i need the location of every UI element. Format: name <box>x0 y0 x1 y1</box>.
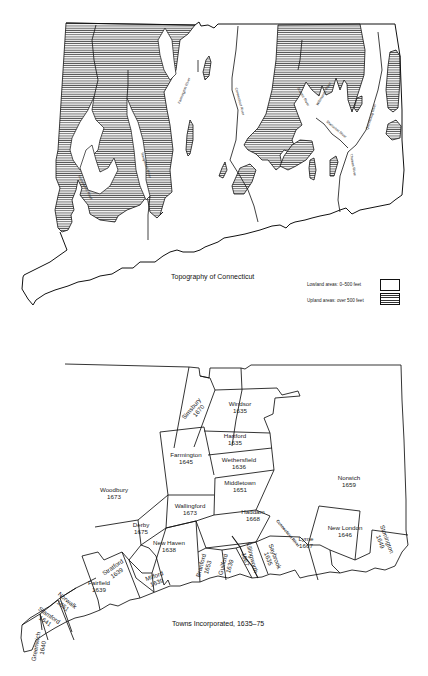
town-name: Milford <box>144 569 164 582</box>
town-year: 1639 <box>109 566 125 580</box>
river-label-thames: Thames River <box>349 153 357 177</box>
svg-text:Norwalk1651: Norwalk1651 <box>52 590 79 616</box>
town-name: Norwalk <box>57 590 79 610</box>
svg-text:Fairfield1639: Fairfield1639 <box>88 579 111 593</box>
upland-island <box>186 120 193 156</box>
town-year: 1673 <box>107 493 121 500</box>
upland-island <box>386 50 400 112</box>
river-label-connecticut: Connecticut River <box>275 518 301 548</box>
town-name: Woodbury <box>100 486 129 493</box>
topography-map: Housatonic River Naugatuck River Farming… <box>0 0 428 340</box>
town-year: 1641 <box>38 614 54 628</box>
town-name: Fairfield <box>88 579 111 586</box>
topography-map-title: Topography of Connecticut <box>171 273 254 280</box>
upland-island <box>309 158 316 180</box>
town-name: Killingworth <box>245 541 260 574</box>
svg-text:Stratford1639: Stratford1639 <box>101 557 129 582</box>
state-outline <box>21 364 408 652</box>
svg-text:Simsbury1670: Simsbury1670 <box>180 396 208 425</box>
town-year: 1673 <box>183 509 197 516</box>
town-year: 1639 <box>224 558 234 574</box>
town-year: 1651 <box>233 486 247 493</box>
svg-text:New London1646: New London1646 <box>328 524 363 538</box>
svg-text:Killingworth1667: Killingworth1667 <box>238 541 260 576</box>
upland-island <box>203 56 211 80</box>
town-name: Wethersfield <box>222 456 257 463</box>
town-name: Farmington <box>170 451 202 458</box>
river-label-quinebaug: Quinebaug River <box>365 103 377 131</box>
svg-text:Saybrook1635: Saybrook1635 <box>261 543 283 573</box>
svg-text:Wethersfield1636: Wethersfield1636 <box>222 456 257 470</box>
town-name: Branford <box>194 552 207 577</box>
legend-upland-label: Upland areas: over 500 feet <box>307 298 364 303</box>
town-name: New Haven <box>153 539 186 546</box>
svg-text:Derby1675: Derby1675 <box>133 521 150 535</box>
town-year: 1668 <box>246 515 260 522</box>
town-year: 1667 <box>240 552 250 568</box>
town-name: Guilford <box>216 552 229 575</box>
town-name: Lyme <box>299 535 314 542</box>
svg-text:Branford1653: Branford1653 <box>194 552 214 579</box>
legend-lowland-label: Lowland areas: 0–500 feet <box>307 282 361 287</box>
svg-text:Hartford1635: Hartford1635 <box>224 432 247 446</box>
town-year: 1635 <box>228 439 242 446</box>
town-year: 1646 <box>338 531 352 538</box>
towns-map-title: Towns Incorporated, 1635–75 <box>172 620 264 627</box>
svg-text:Greenwich1640: Greenwich1640 <box>30 631 49 663</box>
town-name: Haddam <box>241 508 264 515</box>
town-name: Norwich <box>338 474 361 481</box>
town-year: 1659 <box>342 481 356 488</box>
svg-text:New Haven1638: New Haven1638 <box>153 539 186 553</box>
town-name: Stratford <box>101 557 125 577</box>
town-year: 1638 <box>162 546 176 553</box>
town-name: Windsor <box>229 400 252 407</box>
svg-text:Lyme1667: Lyme1667 <box>299 535 314 549</box>
legend-lowland-swatch <box>380 279 400 291</box>
town-name: Stonington <box>379 524 396 555</box>
town-year: 1651 <box>56 598 71 613</box>
svg-text:Milford1639: Milford1639 <box>144 569 167 589</box>
town-year: 1636 <box>232 463 246 470</box>
town-year: 1670 <box>191 403 206 418</box>
legend-upland-swatch <box>380 293 400 305</box>
town-name: Greenwich <box>30 631 42 662</box>
svg-text:Haddam1668: Haddam1668 <box>241 508 264 522</box>
svg-text:Stonington1649: Stonington1649 <box>372 524 395 557</box>
svg-text:Norwich1659: Norwich1659 <box>338 474 361 488</box>
svg-text:Middletown1651: Middletown1651 <box>224 479 256 493</box>
town-name: Saybrook <box>268 543 284 571</box>
town-name: Middletown <box>224 479 256 486</box>
svg-text:Woodbury1673: Woodbury1673 <box>100 486 129 500</box>
town-name: Simsbury <box>180 396 203 421</box>
town-name: Derby <box>133 521 150 528</box>
river-label-farmington: Farmington River <box>177 77 191 105</box>
town-year: 1635 <box>233 407 247 414</box>
town-year: 1639 <box>149 576 165 587</box>
upland-island <box>219 162 227 178</box>
town-year: 1639 <box>92 586 106 593</box>
town-year: 1667 <box>299 542 313 549</box>
svg-text:Stamford1641: Stamford1641 <box>33 605 62 631</box>
upland-west <box>55 23 195 232</box>
town-year: 1675 <box>134 528 148 535</box>
svg-text:Wallingford1673: Wallingford1673 <box>175 502 206 516</box>
town-year: 1653 <box>202 559 212 575</box>
svg-text:Farmington1645: Farmington1645 <box>170 451 202 465</box>
town-name: Wallingford <box>175 502 206 509</box>
town-year: 1645 <box>179 458 193 465</box>
town-name: New London <box>328 524 363 531</box>
town-name: Stamford <box>37 605 62 625</box>
town-year: 1649 <box>375 534 386 550</box>
svg-text:Guilford1639: Guilford1639 <box>216 552 235 577</box>
upland-island <box>330 156 338 176</box>
town-year: 1635 <box>263 551 274 567</box>
town-year: 1640 <box>38 640 47 655</box>
town-name: Hartford <box>224 432 247 439</box>
svg-text:Windsor1635: Windsor1635 <box>229 400 252 414</box>
upland-island <box>386 120 401 140</box>
